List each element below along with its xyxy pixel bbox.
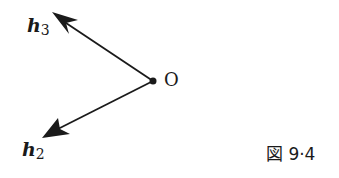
vector-h2-arrow bbox=[42, 81, 153, 138]
vector-h2-subscript: 2 bbox=[36, 146, 45, 162]
origin-label: O bbox=[164, 69, 179, 90]
origin-point bbox=[150, 78, 157, 85]
vector-h3-label: h3 bbox=[27, 14, 50, 38]
vector-h3-arrow bbox=[52, 12, 153, 81]
vector-h3-subscript: 3 bbox=[41, 22, 50, 38]
figure-caption: 図 9·4 bbox=[266, 140, 315, 165]
vector-h3-name: h bbox=[27, 14, 41, 36]
vector-h2-name: h bbox=[22, 138, 36, 160]
vector-h2-label: h2 bbox=[22, 138, 45, 162]
